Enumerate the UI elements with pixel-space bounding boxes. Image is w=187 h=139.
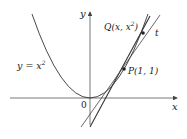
- origin-label: 0: [81, 100, 87, 110]
- tangent-label: t: [155, 28, 159, 38]
- diagram-svg: y x 0 y = x2 P(1, 1) Q(x, x2) t: [0, 0, 187, 139]
- tangent-secant-diagram: y x 0 y = x2 P(1, 1) Q(x, x2) t: [0, 0, 187, 139]
- point-p: [122, 67, 126, 71]
- point-q: [141, 31, 145, 35]
- y-axis-label: y: [79, 8, 86, 19]
- point-p-label: P(1, 1): [127, 66, 159, 76]
- curve-label: y = x2: [16, 59, 46, 71]
- x-axis-label: x: [172, 101, 178, 112]
- point-q-label: Q(x, x2): [104, 20, 139, 32]
